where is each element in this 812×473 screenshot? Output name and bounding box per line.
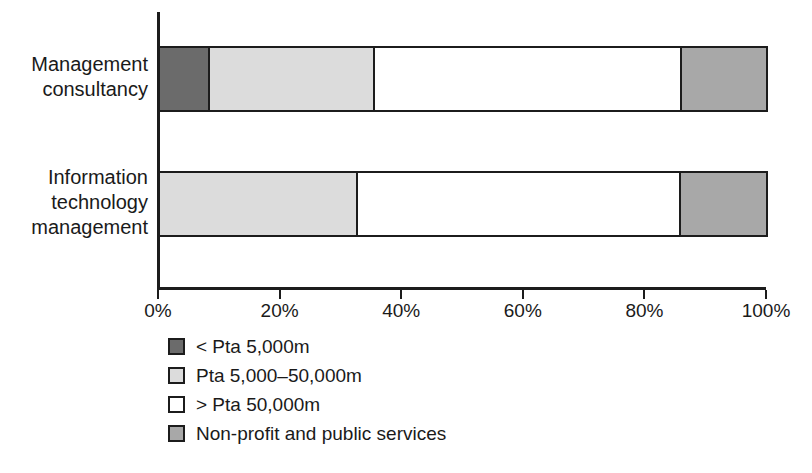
category-label-line: Information	[31, 165, 148, 190]
value-axis-line	[157, 287, 766, 290]
x-axis-tick	[157, 290, 159, 299]
x-axis-tick	[279, 290, 281, 299]
x-axis-tick-label: 80%	[625, 300, 663, 322]
bar-information-technology-management	[158, 171, 768, 237]
legend-swatch-icon	[168, 396, 185, 413]
bar-management-consultancy	[158, 46, 768, 112]
x-axis-tick	[765, 290, 767, 299]
plot-area: 0%20%40%60%80%100% Management consultanc…	[0, 0, 812, 320]
bar-segment	[375, 48, 683, 110]
category-label-line: technology	[31, 190, 148, 215]
x-axis-tick	[522, 290, 524, 299]
category-label-line: Management	[31, 52, 148, 77]
bar-segment	[681, 173, 766, 235]
legend-swatch-icon	[168, 367, 185, 384]
legend-label: > Pta 50,000m	[196, 394, 320, 416]
legend-swatch-icon	[168, 338, 185, 355]
legend-label: Non-profit and public services	[196, 423, 446, 445]
category-label-line: management	[31, 215, 148, 240]
chart-legend: < Pta 5,000mPta 5,000–50,000m> Pta 50,00…	[168, 332, 446, 448]
bar-segment	[210, 48, 375, 110]
category-label-management-consultancy: Management consultancy	[31, 52, 157, 102]
bar-segment	[682, 48, 766, 110]
x-axis-tick-label: 0%	[144, 300, 171, 322]
legend-item[interactable]: > Pta 50,000m	[168, 390, 446, 419]
x-axis-tick-label: 60%	[504, 300, 542, 322]
legend-item[interactable]: Non-profit and public services	[168, 419, 446, 448]
legend-swatch-icon	[168, 425, 185, 442]
legend-item[interactable]: < Pta 5,000m	[168, 332, 446, 361]
stacked-bar-chart: 0%20%40%60%80%100% Management consultanc…	[0, 0, 812, 473]
category-label-line: consultancy	[31, 77, 148, 102]
legend-label: < Pta 5,000m	[196, 336, 310, 358]
category-label-information-technology-management: Information technology management	[31, 165, 157, 240]
legend-label: Pta 5,000–50,000m	[196, 365, 362, 387]
x-axis-tick	[643, 290, 645, 299]
bar-segment	[358, 173, 682, 235]
x-axis-tick-label: 40%	[382, 300, 420, 322]
bar-segment	[160, 48, 210, 110]
x-axis-tick-label: 20%	[261, 300, 299, 322]
x-axis-tick	[400, 290, 402, 299]
legend-item[interactable]: Pta 5,000–50,000m	[168, 361, 446, 390]
x-axis-tick-label: 100%	[742, 300, 791, 322]
bar-segment	[160, 173, 358, 235]
